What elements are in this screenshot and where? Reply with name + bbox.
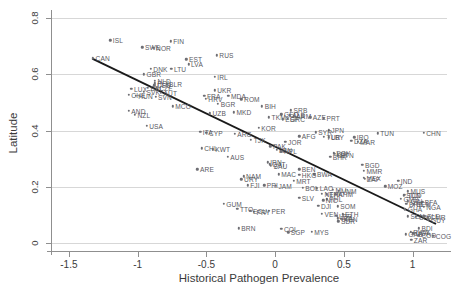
- data-point-label: CYP: [209, 129, 223, 136]
- data-point-label: LVA: [191, 61, 203, 68]
- data-point-label: MRT: [296, 177, 310, 184]
- x-tick-label: -1: [133, 259, 142, 270]
- data-point-label: JOR: [288, 138, 302, 145]
- y-axis-title: Latitude: [7, 73, 19, 193]
- data-point-label: FIN: [173, 38, 184, 45]
- x-tick-mark: [69, 252, 70, 257]
- data-point-label: ARE: [200, 166, 214, 173]
- data-point-label: FJI: [250, 182, 259, 189]
- data-point-label: NOR: [156, 45, 171, 52]
- y-tick-label: 0.4: [29, 124, 40, 137]
- data-point-label: RUS: [219, 52, 233, 59]
- data-point-label: PRT: [327, 115, 340, 122]
- scatter-plot-figure: 00.20.40.60.8 -1.5-1-0.500.51 Latitude H…: [0, 0, 454, 295]
- data-point-label: MCO: [175, 103, 191, 110]
- data-point-label: ESP: [285, 116, 299, 123]
- data-point-label: SLV: [302, 194, 314, 201]
- x-tick-label: -1.5: [60, 259, 77, 270]
- data-point-label: CAN: [96, 55, 110, 62]
- plot-area: ISLFINSWENORCANRUSESTLVADNKLTUGBRIRLNLDP…: [51, 14, 447, 251]
- data-point-label: BWA: [317, 171, 332, 178]
- data-point-label: KOR: [261, 124, 276, 131]
- data-point-label: MYS: [314, 228, 329, 235]
- x-tick-mark: [344, 252, 345, 257]
- data-point-label: DJI: [321, 203, 331, 210]
- data-point-label: KWT: [215, 146, 230, 153]
- x-axis-title: Historical Pathogen Prevalence: [179, 272, 339, 284]
- data-point-label: BRN: [241, 225, 255, 232]
- data-point-label: CHN: [426, 129, 441, 136]
- data-point-label: ECU: [253, 207, 267, 214]
- data-point-label: GUY: [431, 216, 446, 223]
- data-point-label: MMR: [366, 167, 382, 174]
- data-point-label: ZAR: [414, 236, 428, 243]
- data-point-label: TJK: [254, 136, 266, 143]
- x-axis-line: [47, 251, 451, 252]
- data-point-label: SGP: [291, 229, 305, 236]
- data-point-label: LBY: [331, 134, 344, 141]
- data-point-label: NZL: [137, 111, 150, 118]
- x-tick-label: -0.5: [198, 259, 215, 270]
- data-point-label: SAU: [274, 162, 288, 169]
- data-point-label: PER: [272, 207, 286, 214]
- data-point-label: AFG: [302, 133, 316, 140]
- data-point-label: BHR: [333, 154, 347, 161]
- data-point-label: ARG: [237, 131, 252, 138]
- x-tick-mark: [138, 252, 139, 257]
- x-tick-label: 1: [410, 259, 416, 270]
- data-point-label: AUS: [230, 154, 244, 161]
- data-point-label: TKM: [272, 114, 286, 121]
- data-point-label: ISL: [113, 37, 123, 44]
- x-tick-mark: [413, 252, 414, 257]
- data-point-label: MOZ: [388, 183, 403, 190]
- data-point-label: SVN: [158, 93, 172, 100]
- y-tick-label: 0.2: [29, 180, 40, 193]
- data-point-label: USA: [149, 122, 163, 129]
- data-point-label: MKD: [236, 109, 251, 116]
- data-point-label: MAC: [281, 171, 296, 178]
- data-point-label: TTO: [240, 205, 253, 212]
- data-point-label: IRL: [217, 73, 228, 80]
- data-point-label: NPL: [284, 148, 297, 155]
- data-point-label: GHA: [408, 206, 423, 213]
- data-point-label: BIH: [265, 103, 276, 110]
- data-point-label: SOM: [340, 203, 355, 210]
- data-point-label: ROM: [244, 96, 260, 103]
- data-point-label: ZAF: [367, 176, 380, 183]
- data-point-label: COG: [436, 232, 451, 239]
- data-point-label: NGA: [426, 203, 441, 210]
- x-tick-label: 0.5: [337, 259, 351, 270]
- data-point-label: BGR: [221, 100, 236, 107]
- data-point-label: JAM: [278, 183, 292, 190]
- data-point-label: LTU: [174, 66, 186, 73]
- x-tick-mark: [206, 252, 207, 257]
- data-point-label: MAR: [360, 138, 375, 145]
- y-tick-label: 0.8: [29, 12, 40, 25]
- data-point-label: SDR: [341, 218, 355, 225]
- data-point-label: UZB: [212, 110, 226, 117]
- data-point-label: HUN: [138, 92, 153, 99]
- x-tick-mark: [275, 252, 276, 257]
- y-tick-label: 0: [29, 240, 40, 245]
- data-point-label: TUN: [380, 130, 394, 137]
- x-tick-label: 0: [272, 259, 278, 270]
- y-tick-label: 0.6: [29, 68, 40, 81]
